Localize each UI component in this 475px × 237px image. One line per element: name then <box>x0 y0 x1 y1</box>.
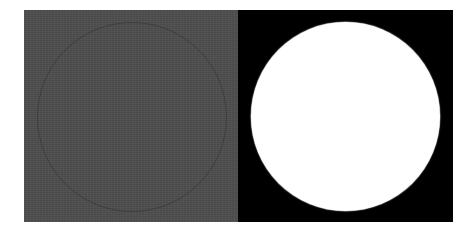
figure-pair <box>24 10 453 222</box>
black-mask-panel <box>238 10 453 222</box>
faint-circle-outline <box>37 22 227 212</box>
noisy-gray-panel <box>24 10 238 222</box>
white-circle-mask <box>251 22 440 211</box>
